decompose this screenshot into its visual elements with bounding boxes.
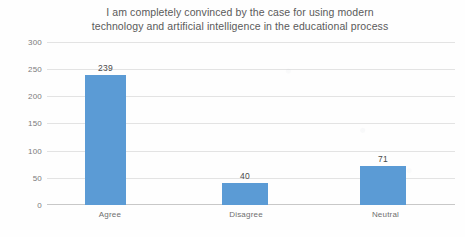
y-axis-tick-300: 300 <box>14 38 42 47</box>
bar-chart-figure: I am completely convinced by the case fo… <box>0 0 465 237</box>
plot-area: 239 40 71 <box>47 42 455 205</box>
bar-disagree[interactable] <box>222 183 268 205</box>
bar-group-disagree: 40 <box>222 42 268 205</box>
y-axis-tick-200: 200 <box>14 92 42 101</box>
y-axis-tick-100: 100 <box>14 147 42 156</box>
bar-group-neutral: 71 <box>360 42 406 205</box>
y-axis-tick-250: 250 <box>14 65 42 74</box>
y-axis-tick-50: 50 <box>14 174 42 183</box>
bar-value-neutral: 71 <box>360 154 406 164</box>
bar-neutral[interactable] <box>360 166 406 205</box>
bar-value-agree: 239 <box>85 63 126 73</box>
bar-value-disagree: 40 <box>222 171 268 181</box>
x-axis-label-neutral: Neutral <box>316 210 455 219</box>
bar-agree[interactable] <box>85 75 126 205</box>
y-axis-tick-150: 150 <box>14 119 42 128</box>
x-axis-label-agree: Agree <box>47 210 173 219</box>
chart-title: I am completely convinced by the case fo… <box>40 5 440 33</box>
y-axis-tick-0: 0 <box>14 201 42 210</box>
x-axis-label-disagree: Disagree <box>176 210 316 219</box>
bar-group-agree: 239 <box>85 42 126 205</box>
